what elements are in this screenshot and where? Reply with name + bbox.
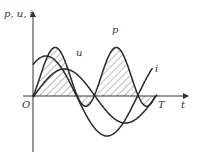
origin-label: O — [22, 99, 30, 110]
y-axis-label: p, u, i — [4, 8, 33, 19]
curve-label-i: i — [155, 63, 158, 74]
power-voltage-current-diagram: p, u, i t O T u i p — [0, 0, 199, 165]
period-label: T — [158, 99, 166, 110]
x-axis-label: t — [181, 99, 186, 110]
curve-label-u: u — [76, 47, 82, 58]
curve-label-p: p — [112, 24, 119, 35]
